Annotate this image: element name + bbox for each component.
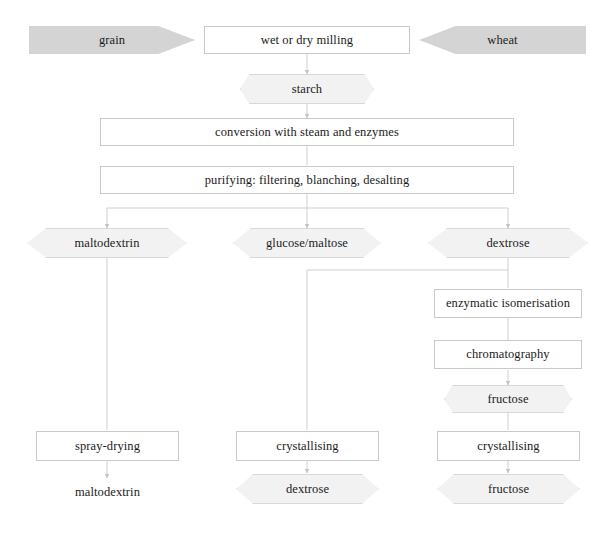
output-maltodextrin-label: maltodextrin: [75, 485, 140, 499]
output-dextrose[interactable]: dextrose: [236, 474, 379, 504]
output-fructose-label: fructose: [488, 482, 529, 496]
material-starch[interactable]: starch: [240, 74, 374, 104]
material-maltodextrin-label: maltodextrin: [74, 236, 139, 250]
process-crystallising-middle-label: crystallising: [276, 439, 338, 453]
material-starch-label: starch: [292, 82, 322, 96]
process-purifying-label: purifying: filtering, blanching, desalti…: [205, 173, 410, 187]
process-conversion[interactable]: conversion with steam and enzymes: [100, 118, 514, 146]
flowchart-canvas: grain wet or dry milling wheat starch co…: [0, 0, 615, 537]
output-maltodextrin: maltodextrin: [36, 478, 179, 506]
process-crystallising-middle[interactable]: crystallising: [236, 431, 379, 461]
output-fructose[interactable]: fructose: [437, 474, 580, 504]
output-dextrose-label: dextrose: [286, 482, 329, 496]
material-dextrose-label: dextrose: [486, 236, 529, 250]
process-purifying[interactable]: purifying: filtering, blanching, desalti…: [100, 166, 514, 194]
material-glucose-maltose[interactable]: glucose/maltose: [233, 228, 381, 258]
process-spray-drying[interactable]: spray-drying: [36, 431, 179, 461]
process-conversion-label: conversion with steam and enzymes: [215, 125, 399, 139]
process-crystallising-right-label: crystallising: [477, 439, 539, 453]
process-chromatography[interactable]: chromatography: [434, 340, 582, 369]
input-grain-label: grain: [99, 33, 125, 47]
material-maltodextrin[interactable]: maltodextrin: [27, 228, 187, 258]
process-isomerisation[interactable]: enzymatic isomerisation: [434, 289, 582, 318]
material-fructose-intermediate-label: fructose: [487, 392, 528, 406]
input-wheat-label: wheat: [487, 33, 517, 47]
process-crystallising-right[interactable]: crystallising: [437, 431, 580, 461]
process-spray-drying-label: spray-drying: [75, 439, 140, 453]
process-chromatography-label: chromatography: [466, 347, 549, 361]
material-fructose-intermediate[interactable]: fructose: [444, 385, 572, 413]
material-dextrose[interactable]: dextrose: [428, 228, 588, 258]
process-isomerisation-label: enzymatic isomerisation: [446, 296, 570, 310]
process-milling-label: wet or dry milling: [261, 33, 353, 47]
process-milling[interactable]: wet or dry milling: [204, 26, 410, 54]
material-glucose-maltose-label: glucose/maltose: [266, 236, 348, 250]
